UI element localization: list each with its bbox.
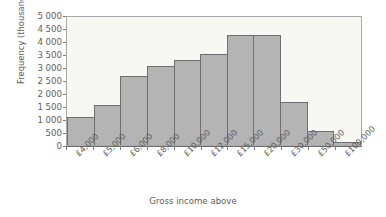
x-tick-mark: [174, 146, 175, 150]
y-tick-mark: [63, 94, 66, 95]
x-tick-mark: [147, 146, 148, 150]
x-tick-label: £8,000: [155, 152, 161, 158]
x-tick-mark: [93, 146, 94, 150]
x-tick-label: £50,000: [316, 152, 322, 158]
x-tick-mark: [66, 146, 67, 150]
x-tick-label: £4,000: [74, 152, 80, 158]
x-tick-label: £20,000: [262, 152, 268, 158]
y-tick-mark: [63, 68, 66, 69]
y-tick-mark: [63, 42, 66, 43]
y-tick-mark: [63, 81, 66, 82]
x-tick-label: £5,000: [101, 152, 107, 158]
x-tick-mark: [227, 146, 228, 150]
x-tick-label: £12,000: [209, 152, 215, 158]
y-tick-mark: [63, 133, 66, 134]
x-tick-mark: [281, 146, 282, 150]
x-axis-tick-labels: £4,000£5,000£6,000£8,000£10,000£12,000£1…: [0, 0, 386, 217]
histogram-figure: Frequency (thousands) 05001 0001 5002 00…: [0, 0, 386, 217]
x-tick-label: £10,000: [182, 152, 188, 158]
x-tick-mark: [120, 146, 121, 150]
y-tick-mark: [63, 16, 66, 17]
x-tick-mark: [308, 146, 309, 150]
x-tick-label: £100,000: [343, 152, 349, 158]
y-tick-mark: [63, 55, 66, 56]
x-tick-mark: [335, 146, 336, 150]
x-axis-title: Gross income above: [0, 196, 386, 206]
x-tick-mark: [254, 146, 255, 150]
x-tick-mark: [201, 146, 202, 150]
y-tick-mark: [63, 29, 66, 30]
x-tick-label: £30,000: [289, 152, 295, 158]
x-tick-label: £6,000: [128, 152, 134, 158]
y-tick-mark: [63, 107, 66, 108]
x-tick-label: £15,000: [235, 152, 241, 158]
y-tick-mark: [63, 120, 66, 121]
